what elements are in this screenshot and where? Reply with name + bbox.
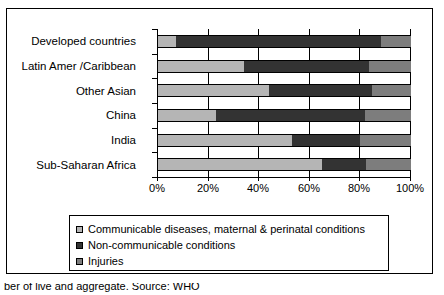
x-axis-tick-label: 40% — [247, 182, 269, 194]
legend-swatch-noncommunicable — [76, 242, 83, 249]
bar-segment — [365, 109, 411, 122]
bar-segment — [244, 60, 369, 73]
category-label: Developed countries — [31, 35, 136, 47]
bar-segment — [158, 84, 269, 97]
x-axis-line — [157, 177, 411, 178]
chart-figure: Developed countriesLatin Amer /Caribbean… — [0, 0, 444, 295]
bar-segment — [176, 35, 381, 48]
y-axis-tick — [152, 103, 157, 104]
bar-segment — [366, 158, 411, 171]
x-axis-tick — [410, 177, 411, 181]
bar-segment — [158, 35, 176, 48]
x-axis-tick-label: 80% — [348, 182, 370, 194]
figure-caption: ber of live and aggregate. Source: WHO — [0, 283, 444, 295]
x-axis-tick-label: 20% — [197, 182, 219, 194]
legend: Communicable diseases, maternal & perina… — [69, 215, 389, 271]
legend-swatch-communicable — [76, 226, 83, 233]
bar-segment — [158, 134, 292, 147]
bar-segment — [158, 60, 244, 73]
bar-row — [158, 158, 410, 171]
legend-item[interactable]: Injuries — [76, 254, 123, 268]
bar-segment — [369, 60, 411, 73]
category-label: India — [111, 134, 136, 146]
bar-row — [158, 60, 410, 73]
y-axis-tick — [152, 152, 157, 153]
category-label: Sub-Saharan Africa — [36, 159, 136, 171]
y-axis-tick — [152, 128, 157, 129]
category-label: Other Asian — [76, 85, 136, 97]
legend-item[interactable]: Non-communicable conditions — [76, 238, 235, 252]
bar-row — [158, 109, 410, 122]
bar-row — [158, 134, 410, 147]
legend-swatch-injuries — [76, 258, 83, 265]
legend-item-label: Non-communicable conditions — [88, 240, 235, 251]
x-axis-tick-label: 100% — [396, 182, 424, 194]
plot-area — [157, 29, 411, 177]
x-axis-tick — [309, 177, 310, 181]
bar-segment — [360, 134, 411, 147]
x-axis-tick — [359, 177, 360, 181]
y-axis-tick — [152, 78, 157, 79]
figure-caption-text: ber of live and aggregate. Source: WHO — [4, 283, 200, 292]
bar-segment — [269, 84, 372, 97]
y-axis-tick — [152, 29, 157, 30]
bar-segment — [292, 134, 360, 147]
x-axis-tick — [208, 177, 209, 181]
plot-right-border — [410, 29, 411, 177]
plot-left-border — [157, 29, 158, 177]
gridline-20 — [208, 29, 209, 177]
legend-item-label: Communicable diseases, maternal & perina… — [88, 224, 365, 235]
legend-item[interactable]: Communicable diseases, maternal & perina… — [76, 222, 365, 236]
legend-item-label: Injuries — [88, 256, 123, 267]
bar-row — [158, 35, 410, 48]
bar-segment — [216, 109, 365, 122]
x-axis-tick — [157, 177, 158, 181]
x-axis-tick — [258, 177, 259, 181]
gridline-40 — [258, 29, 259, 177]
category-label: China — [106, 109, 136, 121]
chart-frame: Developed countriesLatin Amer /Caribbean… — [6, 8, 433, 274]
bar-segment — [158, 109, 216, 122]
bar-segment — [372, 84, 411, 97]
category-label: Latin Amer /Caribbean — [22, 60, 136, 72]
bar-segment — [322, 158, 366, 171]
gridline-80 — [359, 29, 360, 177]
gridline-60 — [309, 29, 310, 177]
bar-row — [158, 84, 410, 97]
y-axis-tick — [152, 54, 157, 55]
x-axis-tick-label: 60% — [298, 182, 320, 194]
bar-segment — [158, 158, 322, 171]
bar-segment — [381, 35, 411, 48]
x-axis-tick-label: 0% — [149, 182, 165, 194]
